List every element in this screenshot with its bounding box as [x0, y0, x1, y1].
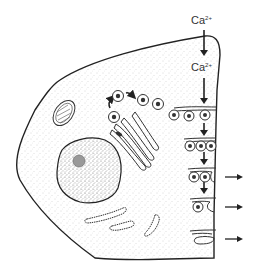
secretory-vesicle: [169, 110, 210, 121]
cell-diagram: Ca2+ Ca2+: [0, 0, 257, 272]
arrowhead-icon: [237, 204, 243, 210]
nucleolus: [73, 155, 85, 167]
secretory-vesicle: [193, 202, 203, 212]
secretory-vesicle: [109, 112, 120, 123]
nucleus: [57, 138, 121, 203]
secretory-vesicle: [185, 141, 216, 151]
secretory-vesicle: [138, 95, 149, 106]
secretory-vesicle: [113, 91, 124, 102]
secretory-vesicle: [153, 99, 164, 110]
ion-label-outside: Ca2+: [191, 14, 212, 26]
arrowhead-icon: [237, 174, 243, 180]
arrowhead-icon: [237, 236, 243, 242]
